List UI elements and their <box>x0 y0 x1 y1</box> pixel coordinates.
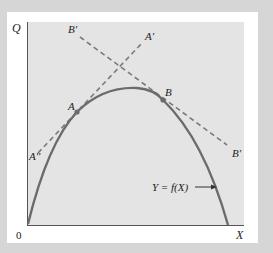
label-b-prime-bottom: B' <box>232 147 242 159</box>
plot-area <box>27 22 244 225</box>
diagram-canvas: Q X 0 B' A' A B A'' B' Y = f(X) <box>0 0 273 253</box>
label-a-prime: A' <box>144 30 155 42</box>
label-a-double-prime: A'' <box>28 150 41 162</box>
point-b-marker <box>160 97 165 102</box>
label-b-prime-top: B' <box>68 23 78 35</box>
x-axis-label: X <box>235 228 244 242</box>
label-point-b: B <box>165 86 172 98</box>
point-a-marker <box>74 109 79 114</box>
curve-label: Y = f(X) <box>152 181 188 194</box>
origin-label: 0 <box>16 229 22 241</box>
diagram-figure: Q X 0 B' A' A B A'' B' Y = f(X) <box>0 0 273 253</box>
label-point-a: A <box>67 100 75 112</box>
y-axis-label: Q <box>12 21 21 35</box>
